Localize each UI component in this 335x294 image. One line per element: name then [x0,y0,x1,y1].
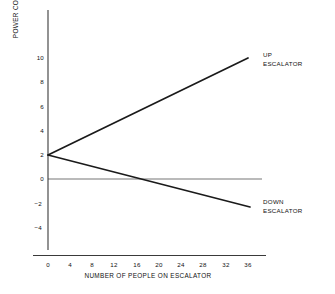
y-tick-label: 6 [26,104,44,110]
series-annotation-line2: ESCALATOR [263,206,303,215]
x-tick-label: 12 [104,262,124,268]
x-axis-title: NUMBER OF PEOPLE ON ESCALATOR [48,272,248,279]
x-tick-label: 32 [216,262,236,268]
x-tick-label: 36 [238,262,258,268]
y-tick-label: 2 [26,152,44,158]
series-line-up-escalator [48,58,248,155]
y-tick-label: 0 [26,176,44,182]
escalator-power-chart: 10 8 6 4 2 0 −2 −4 0 4 8 12 16 20 24 28 … [0,0,335,294]
x-tick-label: 4 [60,262,80,268]
x-tick-label: 16 [127,262,147,268]
series-annotation-line1: DOWN [263,197,303,206]
x-tick-label: 0 [38,262,58,268]
y-tick-label: 10 [26,55,44,61]
series-annotation-down-escalator: DOWN ESCALATOR [263,197,303,215]
chart-plot-area [0,0,335,294]
x-tick-label: 8 [82,262,102,268]
x-tick-label: 28 [193,262,213,268]
y-tick-label: −2 [24,201,42,207]
y-tick-label: −4 [24,225,42,231]
x-tick-label: 24 [171,262,191,268]
x-tick-label: 20 [149,262,169,268]
series-annotation-line1: UP [263,50,303,59]
series-annotation-line2: ESCALATOR [263,59,303,68]
y-axis-title: POWER CONSUMPTION RATE — KILOWATTS [11,0,21,58]
y-tick-label: 4 [26,128,44,134]
series-annotation-up-escalator: UP ESCALATOR [263,50,303,68]
series-line-down-escalator [48,155,250,207]
y-tick-label: 8 [26,79,44,85]
